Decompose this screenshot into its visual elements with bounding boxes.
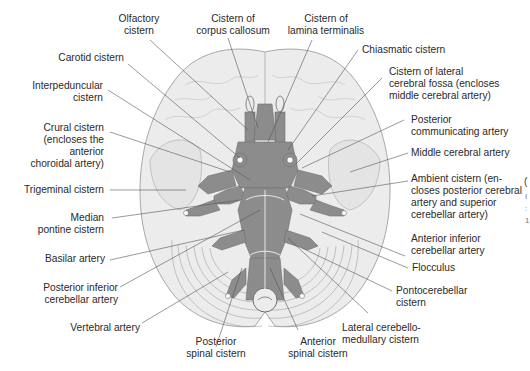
- label-posterior-communicating-artery: Posterior communicating artery: [411, 114, 508, 138]
- label-line: Pontocerebellar: [396, 285, 467, 297]
- label-line: Lateral cerebello-: [342, 322, 421, 334]
- label-line: Basilar artery: [10, 253, 105, 265]
- label-anterior-inferior-cerebellar-artery: Anterior inferior cerebellar artery: [411, 233, 485, 257]
- label-anterior-spinal-cistern: Anterior spinal cistern: [278, 336, 358, 360]
- label-line: Anterior inferior: [411, 233, 485, 245]
- label-line: cerebellar artery): [411, 209, 522, 221]
- label-line: Carotid cistern: [20, 52, 124, 64]
- label-line: Posterior inferior: [10, 282, 118, 294]
- label-carotid-cistern: Carotid cistern: [20, 52, 124, 64]
- label-posterior-inferior-cerebellar-artery: Posterior inferior cerebellar artery: [10, 282, 118, 306]
- label-basilar-artery: Basilar artery: [10, 253, 105, 265]
- label-line: cerebellar artery: [411, 245, 485, 257]
- label-interpeduncular-cistern: Interpeduncular cistern: [10, 80, 103, 104]
- label-line: Cistern of: [278, 13, 374, 25]
- label-median-pontine-cistern: Median pontine cistern: [10, 212, 104, 236]
- label-line: corpus callosum: [188, 25, 278, 37]
- label-vertebral-artery: Vertebral artery: [30, 322, 140, 334]
- label-line: anterior: [10, 146, 104, 158]
- label-cistern-lamina-terminalis: Cistern of lamina terminalis: [278, 13, 374, 37]
- label-trigeminal-cistern: Trigeminal cistern: [0, 184, 104, 196]
- medulla: [253, 288, 277, 312]
- label-line: Cistern of: [188, 13, 278, 25]
- label-olfactory-cistern: Olfactory cistern: [109, 13, 169, 37]
- label-line: lamina terminalis: [278, 25, 374, 37]
- label-line: Interpeduncular: [10, 80, 103, 92]
- label-middle-cerebral-artery: Middle cerebral artery: [411, 147, 510, 159]
- label-line: Crural cistern: [10, 122, 104, 134]
- label-line: cistern: [10, 92, 103, 104]
- label-line: cistern: [109, 25, 169, 37]
- label-line: spinal cistern: [278, 348, 358, 360]
- label-line: Flocculus: [412, 262, 455, 274]
- edge-fragment: :: [525, 204, 527, 213]
- label-line: Anterior: [278, 336, 358, 348]
- label-line: Trigeminal cistern: [0, 184, 104, 196]
- label-line: Vertebral artery: [30, 322, 140, 334]
- cistern-diagram: Olfactory cistern Cistern of corpus call…: [0, 0, 530, 371]
- label-line: choroidal artery): [10, 158, 104, 170]
- label-crural-cistern: Crural cistern (encloses the anterior ch…: [10, 122, 104, 170]
- label-line: cerebral fossa (encloses: [389, 78, 499, 90]
- label-cistern-lateral-cerebral-fossa: Cistern of lateral cerebral fossa (enclo…: [389, 66, 499, 102]
- label-flocculus: Flocculus: [412, 262, 455, 274]
- label-line: cerebellar artery: [10, 294, 118, 306]
- label-line: Olfactory: [109, 13, 169, 25]
- edge-fragment: 1: [525, 216, 529, 225]
- label-line: pontine cistern: [10, 224, 104, 236]
- edge-fragment: (: [524, 176, 527, 187]
- label-pontocerebellar-cistern: Pontocerebellar cistern: [396, 285, 467, 309]
- label-line: (encloses the: [10, 134, 104, 146]
- label-ambient-cistern: Ambient cistern (en- closes posterior ce…: [411, 173, 522, 221]
- label-line: Median: [10, 212, 104, 224]
- label-chiasmatic-cistern: Chiasmatic cistern: [362, 44, 445, 56]
- label-line: cistern: [396, 297, 467, 309]
- label-cistern-corpus-callosum: Cistern of corpus callosum: [188, 13, 278, 37]
- label-line: middle cerebral artery): [389, 90, 499, 102]
- edge-fragment: I: [525, 192, 527, 201]
- label-line: communicating artery: [411, 126, 508, 138]
- label-line: Ambient cistern (en-: [411, 173, 522, 185]
- label-line: Cistern of lateral: [389, 66, 499, 78]
- label-line: closes posterior cerebral: [411, 185, 522, 197]
- label-line: spinal cistern: [176, 348, 256, 360]
- label-line: Posterior: [176, 336, 256, 348]
- label-line: Middle cerebral artery: [411, 147, 510, 159]
- label-line: Posterior: [411, 114, 508, 126]
- label-line: artery and superior: [411, 197, 522, 209]
- label-posterior-spinal-cistern: Posterior spinal cistern: [176, 336, 256, 360]
- label-line: Chiasmatic cistern: [362, 44, 445, 56]
